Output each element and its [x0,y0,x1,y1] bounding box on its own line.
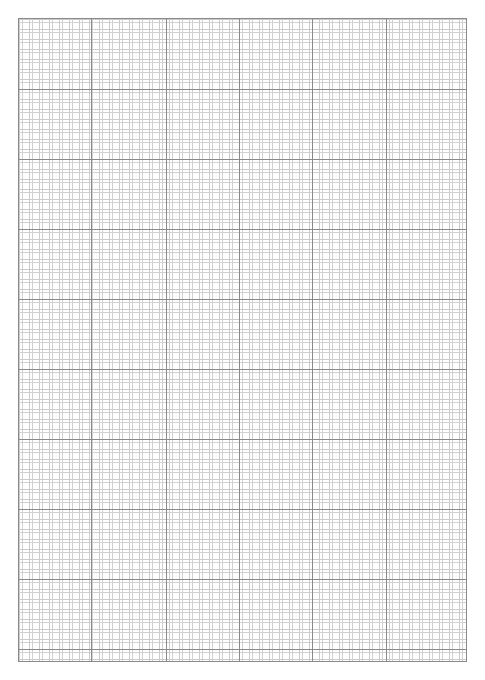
major-gridline-horizontal [19,439,466,440]
major-gridline-vertical [166,19,167,661]
grid-sheet [18,18,467,662]
major-grid [19,19,466,661]
major-gridline-horizontal [19,509,466,510]
major-gridline-horizontal [19,229,466,230]
major-gridline-horizontal [19,649,466,650]
minor-grid-lattice [19,19,466,661]
major-gridline-horizontal [19,369,466,370]
graph-paper-page [0,0,485,680]
major-gridline-vertical [239,19,240,661]
major-gridline-vertical [91,19,92,661]
minor-grid-dots [19,19,466,661]
major-gridline-horizontal [19,159,466,160]
major-gridline-horizontal [19,579,466,580]
major-gridline-vertical [312,19,313,661]
major-gridline-vertical [386,19,387,661]
major-gridline-horizontal [19,89,466,90]
major-gridline-horizontal [19,299,466,300]
